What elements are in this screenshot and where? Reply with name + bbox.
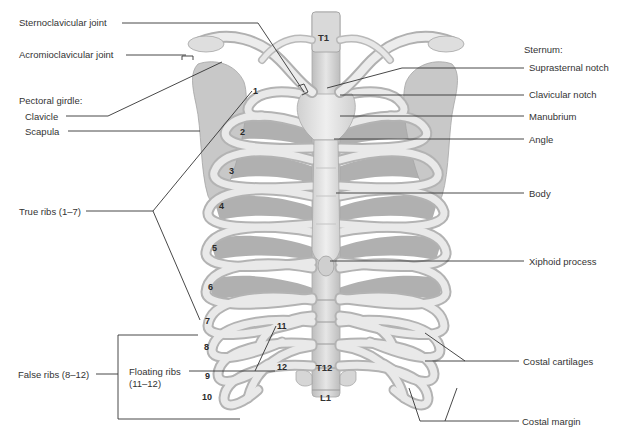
vertebra-t1-label: T1	[318, 33, 329, 43]
label-sternum: Sternum:	[524, 44, 563, 55]
thoracic-cage-diagram: Sternoclavicular joint Acromioclavicular…	[0, 0, 625, 439]
label-pectoral-girdle: Pectoral girdle:	[19, 95, 82, 106]
label-false-ribs: False ribs (8–12)	[18, 369, 89, 380]
label-costal-margin: Costal margin	[522, 416, 581, 427]
label-angle: Angle	[529, 134, 553, 145]
vertebra-l1-label: L1	[320, 393, 331, 403]
rib-number-11: 11	[277, 321, 287, 331]
label-body: Body	[529, 188, 551, 199]
label-manubrium: Manubrium	[529, 111, 577, 122]
label-clavicle: Clavicle	[25, 111, 58, 122]
label-floating-ribs-range: (11–12)	[129, 378, 161, 389]
rib-number-9: 9	[205, 371, 210, 381]
rib-number-4: 4	[219, 201, 224, 211]
label-xiphoid-process: Xiphoid process	[529, 256, 597, 267]
label-scapula: Scapula	[25, 126, 59, 137]
acromion-right	[428, 36, 464, 52]
label-acromioclavicular-joint: Acromioclavicular joint	[19, 49, 114, 60]
label-true-ribs: True ribs (1–7)	[19, 206, 81, 217]
rib-number-10: 10	[202, 392, 212, 402]
rib-number-1: 1	[253, 86, 258, 96]
label-costal-cartilages: Costal cartilages	[523, 356, 593, 367]
rib-number-6: 6	[208, 282, 213, 292]
label-suprasternal-notch: Suprasternal notch	[529, 62, 609, 73]
rib-number-12: 12	[277, 362, 287, 372]
rib-number-5: 5	[212, 243, 217, 253]
label-floating-ribs: Floating ribs	[129, 366, 181, 377]
acromion-left	[188, 36, 224, 52]
label-clavicular-notch: Clavicular notch	[529, 89, 597, 100]
rib-number-2: 2	[240, 127, 245, 137]
rib-number-8: 8	[204, 342, 209, 352]
vertebra-t12-label: T12	[316, 363, 332, 373]
rib-number-3: 3	[229, 166, 234, 176]
rib-number-7: 7	[205, 316, 210, 326]
label-sternoclavicular-joint: Sternoclavicular joint	[19, 17, 107, 28]
